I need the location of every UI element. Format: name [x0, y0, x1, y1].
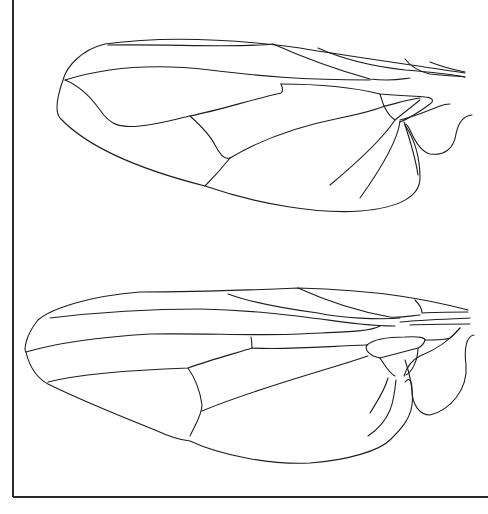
lower-wing: [25, 288, 474, 463]
wing-venation-figure: [0, 0, 488, 514]
upper-wing: [57, 39, 472, 211]
